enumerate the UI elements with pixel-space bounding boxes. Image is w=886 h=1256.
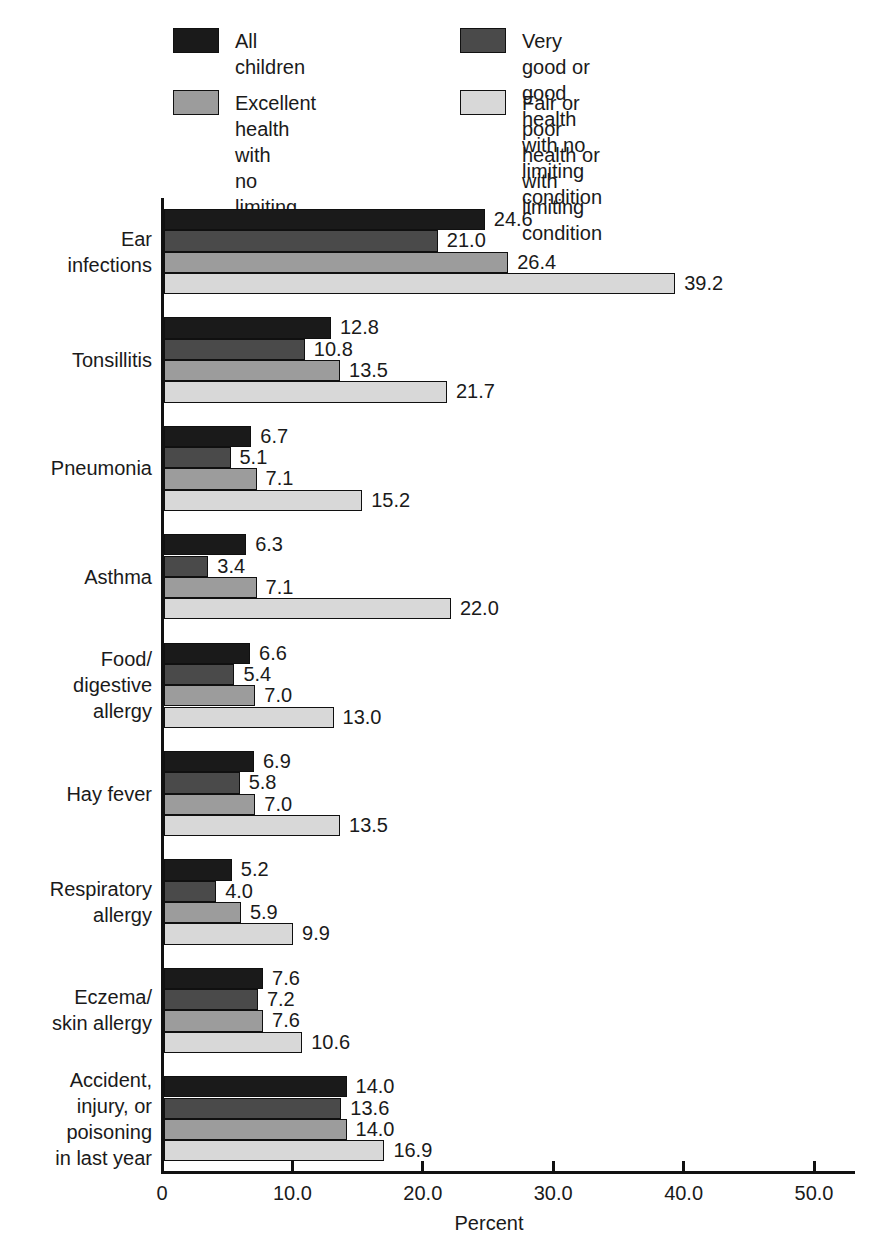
x-tick-label: 40.0 (664, 1182, 703, 1204)
bar (164, 859, 232, 880)
bar (164, 426, 251, 447)
category-label: Food/ digestive allergy (0, 646, 152, 724)
bar-value-label: 7.6 (272, 1010, 300, 1031)
bar (164, 273, 675, 294)
bar (164, 209, 485, 230)
bar-value-label: 5.9 (250, 902, 278, 923)
x-tick-label: 0 (156, 1182, 167, 1204)
category-label: Asthma (0, 564, 152, 590)
bar-value-label: 5.4 (243, 664, 271, 685)
bar (164, 815, 340, 836)
x-axis-title: Percent (455, 1211, 524, 1235)
x-tick (291, 1161, 294, 1171)
bar (164, 447, 231, 468)
x-axis-line (161, 1171, 855, 1174)
bar-value-label: 4.0 (225, 881, 253, 902)
bar (164, 1076, 347, 1097)
x-tick-label: 20.0 (403, 1182, 442, 1204)
bar (164, 534, 246, 555)
bar (164, 881, 216, 902)
bar-value-label: 21.0 (447, 230, 486, 251)
bar-value-label: 7.1 (266, 468, 294, 489)
bar-value-label: 3.4 (217, 556, 245, 577)
bar-chart-figure: All childrenVery good or good health wit… (0, 0, 886, 1256)
category-label: Respiratory allergy (0, 876, 152, 928)
bar-value-label: 5.8 (249, 772, 277, 793)
bar-value-label: 14.0 (356, 1119, 395, 1140)
x-tick (552, 1161, 555, 1171)
bar (164, 1119, 347, 1140)
bar (164, 317, 331, 338)
bar-value-label: 9.9 (302, 923, 330, 944)
bar-value-label: 39.2 (684, 273, 723, 294)
bar-value-label: 7.0 (264, 794, 292, 815)
legend-label: Fair or poor health or with limiting con… (522, 90, 602, 246)
x-tick-label: 50.0 (795, 1182, 834, 1204)
bar (164, 360, 340, 381)
bar-value-label: 26.4 (517, 252, 556, 273)
bar (164, 1032, 302, 1053)
bar (164, 794, 255, 815)
x-tick (813, 1161, 816, 1171)
bar (164, 685, 255, 706)
bar-value-label: 6.7 (260, 426, 288, 447)
bar-value-label: 6.6 (259, 643, 287, 664)
bar-value-label: 6.9 (263, 751, 291, 772)
legend-swatch (173, 28, 219, 53)
x-tick (682, 1161, 685, 1171)
category-label: Ear infections (0, 226, 152, 278)
bar (164, 707, 334, 728)
legend-swatch (460, 90, 506, 115)
bar (164, 643, 250, 664)
bar-value-label: 7.2 (267, 989, 295, 1010)
bar (164, 598, 451, 619)
bar (164, 751, 254, 772)
bar-value-label: 5.1 (240, 447, 268, 468)
bar-value-label: 13.6 (350, 1098, 389, 1119)
bar-value-label: 7.1 (266, 577, 294, 598)
bar-value-label: 16.9 (393, 1140, 432, 1161)
bar (164, 468, 257, 489)
bar (164, 1098, 341, 1119)
category-label: Accident, injury, or poisoning in last y… (0, 1067, 152, 1171)
category-label: Pneumonia (0, 455, 152, 481)
bar (164, 772, 240, 793)
bar (164, 381, 447, 402)
bar-value-label: 14.0 (356, 1076, 395, 1097)
bar-value-label: 24.6 (494, 209, 533, 230)
bar-value-label: 10.8 (314, 339, 353, 360)
bar (164, 252, 508, 273)
bar-value-label: 22.0 (460, 598, 499, 619)
bar (164, 339, 305, 360)
bar (164, 664, 234, 685)
x-tick-label: 30.0 (534, 1182, 573, 1204)
bar-value-label: 21.7 (456, 381, 495, 402)
x-tick (421, 1161, 424, 1171)
category-label: Hay fever (0, 781, 152, 807)
bar (164, 1010, 263, 1031)
legend-swatch (460, 28, 506, 53)
bar-value-label: 13.5 (349, 360, 388, 381)
bar-value-label: 15.2 (371, 490, 410, 511)
bar-value-label: 13.0 (343, 707, 382, 728)
bar-value-label: 10.6 (311, 1032, 350, 1053)
bar-value-label: 6.3 (255, 534, 283, 555)
bar-value-label: 7.0 (264, 685, 292, 706)
bar (164, 230, 438, 251)
legend-label: All children (235, 28, 305, 80)
legend-swatch (173, 90, 219, 115)
bar (164, 968, 263, 989)
category-label: Tonsillitis (0, 347, 152, 373)
bar-value-label: 7.6 (272, 968, 300, 989)
bar-value-label: 5.2 (241, 859, 269, 880)
bar-value-label: 13.5 (349, 815, 388, 836)
bar (164, 490, 362, 511)
bar (164, 902, 241, 923)
x-tick-label: 10.0 (273, 1182, 312, 1204)
bar-value-label: 12.8 (340, 317, 379, 338)
bar (164, 923, 293, 944)
bar (164, 989, 258, 1010)
bar (164, 556, 208, 577)
bar (164, 577, 257, 598)
category-label: Eczema/ skin allergy (0, 984, 152, 1036)
